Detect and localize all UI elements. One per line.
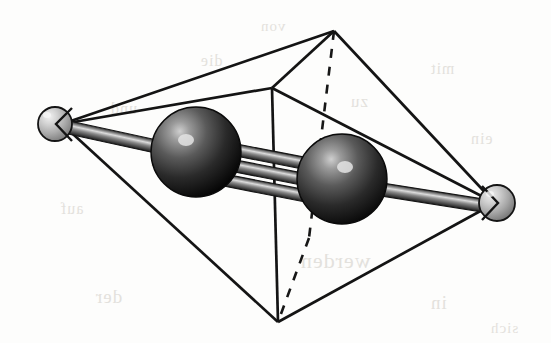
highlight-metal-right [337,161,353,173]
metal-sphere-left [151,107,241,197]
edge-front-apex-top [272,31,334,88]
edge-apex-bottom-right [278,203,495,322]
hidden-edge-back-bottom [278,238,309,322]
highlight-ligand-right [486,191,494,197]
structure-drawing [0,0,551,343]
highlight-ligand-left [43,112,51,118]
edge-front-apex-bottom [272,88,278,322]
metal-sphere-right [297,134,387,224]
molecular-structure-figure: werdenderinBazudiemitundeinaufvonsich [0,0,551,343]
atom-spheres [38,107,515,224]
highlight-metal-left [178,134,194,146]
